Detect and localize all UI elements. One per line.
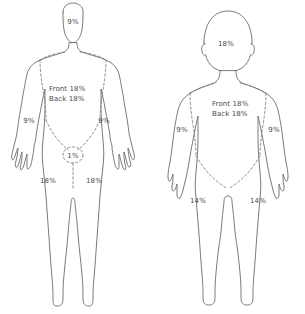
child-torso-front-label: Front 18%: [212, 99, 264, 109]
adult-groin-label: 1%: [62, 151, 84, 161]
adult-torso-front-label: Front 18%: [49, 84, 101, 94]
adult-arm-left-label: 9%: [94, 116, 114, 126]
adult-head-label: 9%: [62, 17, 84, 27]
child-leg-right-label: 14%: [186, 196, 210, 206]
adult-torso-back-label: Back 18%: [49, 94, 101, 104]
child-arm-left-label: 9%: [264, 125, 284, 135]
child-head-label: 18%: [214, 39, 238, 49]
child-arm-right-label: 9%: [172, 125, 192, 135]
adult-leg-right-label: 18%: [36, 176, 60, 186]
adult-leg-left-label: 18%: [82, 176, 106, 186]
burn-percentage-diagram: 9% Front 18% Back 18% 9% 9% 1% 18% 18% 1…: [0, 0, 305, 314]
child-torso-back-label: Back 18%: [212, 109, 264, 119]
adult-arm-right-label: 9%: [19, 116, 39, 126]
child-leg-left-label: 14%: [246, 196, 270, 206]
